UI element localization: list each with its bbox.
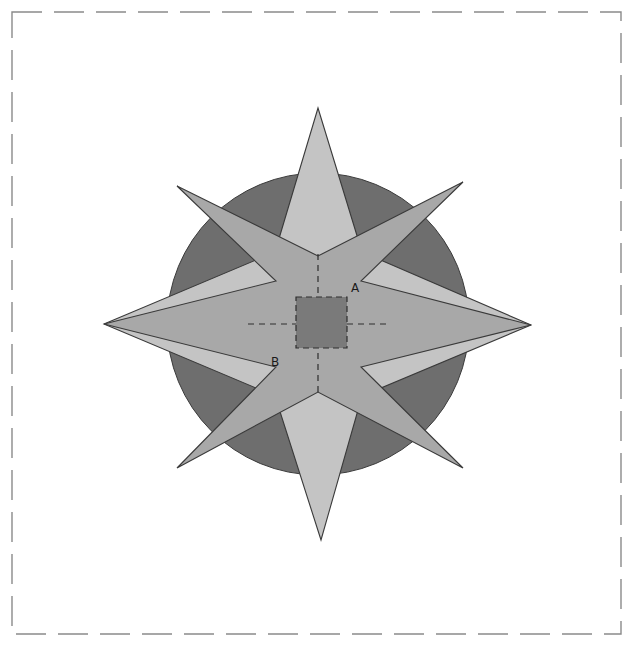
geometry-figure: A B [0,0,633,646]
vertex-label-a: A [351,281,360,295]
figure-canvas: A B [0,0,633,646]
center-square [296,297,347,348]
vertex-label-b: B [271,355,279,369]
